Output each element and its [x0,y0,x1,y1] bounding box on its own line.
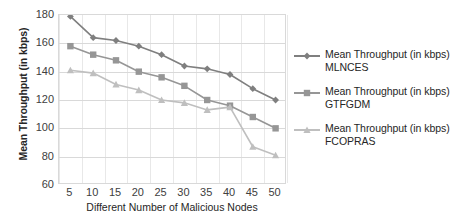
y-axis-tick-label: 100 [22,121,54,133]
diamond-marker-icon [294,49,320,62]
throughput-line-chart: Mean Throughput (in kbps) 18016014012010… [0,0,451,220]
y-axis-tick-labels: 1801601401201008060 [22,10,54,186]
y-axis-tick-label: 140 [22,65,54,77]
legend-item-label: Mean Throughput (in kbps) FCOPRAS [325,122,451,148]
y-axis-tick-label: 80 [22,150,54,162]
series-square [67,43,279,132]
legend-item-label: Mean Throughput (in kbps) MLNCES [325,48,451,74]
x-axis-tick-label: 50 [262,186,288,198]
chart-legend: Mean Throughput (in kbps) MLNCESMean Thr… [294,48,451,159]
gridline-vertical [287,15,288,183]
y-axis-tick-label: 160 [22,36,54,48]
x-axis-title: Different Number of Malicious Nodes [46,201,298,213]
series-plot [59,15,287,185]
legend-item[interactable]: Mean Throughput (in kbps) MLNCES [294,48,451,74]
y-axis-tick-label: 120 [22,93,54,105]
legend-item[interactable]: Mean Throughput (in kbps) GTFGDM [294,85,451,111]
legend-item[interactable]: Mean Throughput (in kbps) FCOPRAS [294,122,451,148]
square-marker-icon [294,86,320,99]
series-triangle [67,67,279,159]
y-axis-tick-label: 180 [22,8,54,20]
triangle-marker-icon [294,123,320,136]
x-axis-tick-labels: 5101520253035404550 [58,186,286,200]
y-axis-tick-label: 60 [22,178,54,190]
legend-item-label: Mean Throughput (in kbps) GTFGDM [325,85,451,111]
plot-area [58,14,286,184]
series-diamond [67,15,279,103]
